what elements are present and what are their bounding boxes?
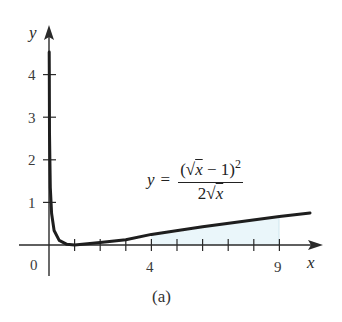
num-open: (√ [180,160,195,179]
formula-lhs: y [147,170,155,190]
y-tick-label-4: 4 [28,67,36,83]
den-coef: 2√ [198,184,216,203]
function-curve [49,52,310,245]
num-exponent: 2 [235,157,241,171]
num-var: x [195,160,203,179]
formula-fraction: (√x − 1)2 2√x [178,157,243,204]
x-axis-label: x [306,253,315,272]
y-tick-label-1: 1 [28,195,36,211]
figure-caption: (a) [152,287,171,307]
y-tick-label-2: 2 [28,152,36,168]
y-axis-label: y [27,23,37,42]
y-tick-label-3: 3 [28,110,36,126]
x-tick-label-4: 4 [146,259,154,275]
num-rest: − 1) [203,160,235,179]
origin-label: 0 [30,257,38,273]
formula-denominator: 2√x [198,183,223,204]
x-tick-label-9: 9 [274,259,282,275]
function-formula: y = (√x − 1)2 2√x [147,157,243,204]
formula-equals: = [161,170,171,190]
den-var: x [216,184,224,203]
formula-numerator: (√x − 1)2 [178,157,243,183]
